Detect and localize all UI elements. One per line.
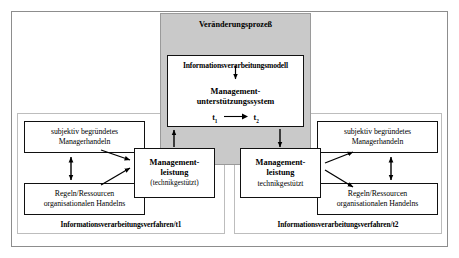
time-transition-row: t1 t2	[168, 113, 303, 124]
regeln-t1-line-1: Regeln/Ressourcen	[55, 189, 114, 198]
subj-t1-line-1: subjektiv begründetes	[51, 127, 118, 136]
box-managementleistung-t2: Management- leistung technikgestützt	[240, 148, 321, 198]
mus-line-1: Management-	[211, 87, 261, 96]
veraenderungsprozess-title: Veränderungsprozeß	[161, 20, 310, 29]
ml-t2-line-1: Management-	[241, 158, 320, 168]
panel-t2-label: Informationsverarbeitungsverfahren/t2	[235, 220, 441, 229]
managementunterstuetzungssystem-label: Management- unterstützungssystem	[168, 87, 303, 106]
mus-line-2: unterstützungssystem	[197, 97, 275, 106]
informationsverarbeitungsmodell-box: Informationsverarbeitungsmodell Manageme…	[167, 55, 304, 127]
diagram-canvas: Informationsverarbeitungsverfahren/t1 In…	[0, 0, 459, 258]
subj-t2-line-1: subjektiv begründetes	[344, 127, 411, 136]
time-arrow-icon	[224, 113, 248, 122]
box-regeln-ressourcen-t2: Regeln/Ressourcen organisationalen Hande…	[317, 183, 438, 215]
regeln-t2-line-2: organisationalen Handelns	[337, 199, 419, 208]
box-managementleistung-t1: Management- leistung (technikgestützt)	[134, 148, 215, 198]
subj-t1-line-2: Managerhandeln	[59, 137, 111, 146]
time-t1: t1	[212, 113, 217, 122]
time-t2: t2	[254, 113, 259, 122]
box-subjektiv-begruendetes-managerhandeln-t2: subjektiv begründetes Managerhandeln	[317, 121, 438, 153]
panel-t1-label: Informationsverarbeitungsverfahren/t1	[18, 220, 224, 229]
regeln-t2-line-1: Regeln/Ressourcen	[348, 189, 407, 198]
ml-t1-line-3: (technikgestützt)	[135, 179, 214, 188]
ml-t1-line-1: Management-	[135, 158, 214, 168]
subj-t2-line-2: Managerhandeln	[352, 137, 404, 146]
ml-t1-line-2: leistung	[135, 168, 214, 178]
ml-t2-line-2: leistung	[241, 168, 320, 178]
informationsverarbeitungsmodell-label: Informationsverarbeitungsmodell	[168, 61, 303, 70]
box-subjektiv-begruendetes-managerhandeln-t1: subjektiv begründetes Managerhandeln	[24, 121, 145, 153]
box-regeln-ressourcen-t1: Regeln/Ressourcen organisationalen Hande…	[24, 183, 145, 215]
regeln-t1-line-2: organisationalen Handelns	[44, 199, 126, 208]
ml-t2-line-3: technikgestützt	[241, 179, 320, 188]
